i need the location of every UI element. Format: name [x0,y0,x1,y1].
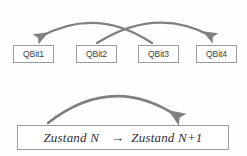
qubit-swap-diagram: QBit1 QBit2 QBit3 QBit4 Zustand N → Zust… [0,0,247,156]
qbit-label-3: QBit3 [148,49,169,59]
qbit-label-2: QBit2 [86,49,107,59]
state-to-label: Zustand N+1 [131,130,202,146]
swap-arrow-qbit3-to-qbit1 [40,23,152,43]
state-transition-box[interactable]: Zustand N → Zustand N+1 [17,125,229,150]
state-from-label: Zustand N [43,130,99,146]
state-transition-arrow [48,96,177,123]
qbit-box-2[interactable]: QBit2 [76,45,117,63]
qbit-box-1[interactable]: QBit1 [13,45,54,63]
qbit-label-1: QBit1 [23,49,44,59]
qbit-box-3[interactable]: QBit3 [138,45,179,63]
qbit-box-4[interactable]: QBit4 [196,45,237,63]
swap-arrow-qbit2-to-qbit4 [97,23,211,43]
qbit-label-4: QBit4 [206,49,227,59]
state-arrow-glyph: → [111,130,124,146]
